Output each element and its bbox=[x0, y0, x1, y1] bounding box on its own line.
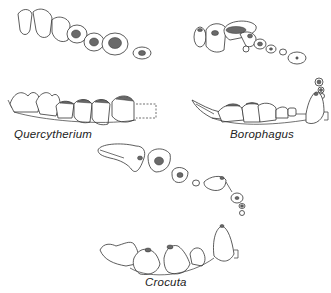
quercytherium-lower-toothrow bbox=[8, 93, 156, 125]
borophagus-upper-toothrow bbox=[194, 21, 325, 98]
borophagus-lower-toothrow bbox=[192, 92, 328, 124]
label-quercytherium: Quercytherium bbox=[14, 128, 92, 140]
label-borophagus: Borophagus bbox=[230, 128, 294, 140]
crocuta-upper-toothrow bbox=[98, 144, 245, 216]
quercytherium-upper-toothrow bbox=[18, 9, 151, 59]
crocuta-lower-toothrow bbox=[100, 225, 238, 275]
dentition-figure bbox=[0, 0, 331, 293]
label-crocuta: Crocuta bbox=[145, 276, 187, 288]
